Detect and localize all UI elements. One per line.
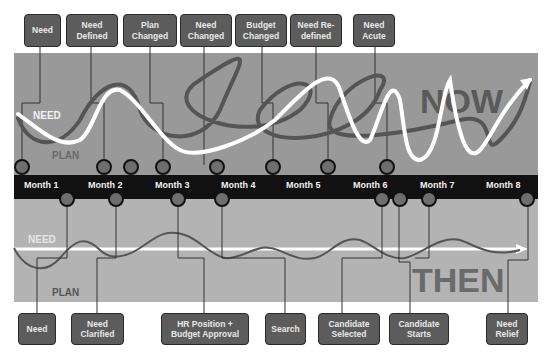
event-candidate-selected: Candidate Selected — [318, 313, 380, 345]
milestone-dot — [15, 160, 29, 174]
now-title: NOW — [420, 82, 504, 120]
milestone-dot — [124, 160, 138, 174]
milestone-dot — [422, 192, 436, 206]
month-label: Month 3 — [155, 180, 190, 190]
milestone-dot — [266, 160, 280, 174]
milestone-dot — [215, 192, 229, 206]
event-budget-changed: Budget Changed — [235, 14, 287, 47]
event-need-clarified: Need Clarified — [71, 313, 124, 345]
event-candidate-starts: Candidate Starts — [389, 313, 449, 345]
milestone-dot — [520, 192, 534, 206]
then-title: THEN — [412, 261, 505, 299]
milestone-dot — [60, 192, 74, 206]
milestone-dot — [156, 160, 170, 174]
event-need-acute: Need Acute — [353, 14, 395, 47]
event-need-relief: Need Relief — [486, 313, 528, 345]
month-label: Month 7 — [420, 180, 455, 190]
event-need: Need — [24, 14, 61, 47]
then-plan-label: PLAN — [52, 287, 79, 298]
event-then-need: Need — [18, 313, 56, 345]
event-plan-changed: Plan Changed — [123, 14, 177, 47]
milestone-dot — [321, 160, 335, 174]
milestone-dot — [210, 160, 224, 174]
then-need-label: NEED — [28, 234, 56, 245]
event-hr-budget-approval: HR Position + Budget Approval — [161, 313, 249, 345]
milestone-dot — [171, 192, 185, 206]
month-label: Month 6 — [353, 180, 388, 190]
event-search: Search — [265, 313, 306, 345]
now-need-label: NEED — [33, 110, 61, 121]
event-need-defined: Need Defined — [66, 14, 118, 47]
milestone-dot — [380, 160, 394, 174]
event-need-changed: Need Changed — [180, 14, 232, 47]
month-label: Month 4 — [221, 180, 256, 190]
milestone-dot — [109, 192, 123, 206]
now-plan-label: PLAN — [52, 150, 79, 161]
milestone-dot — [97, 160, 111, 174]
month-label: Month 5 — [286, 180, 321, 190]
timeline-diagram: NOW THEN NEED PLAN NEED PLAN — [0, 0, 549, 358]
milestone-dot — [375, 192, 389, 206]
month-label: Month 2 — [88, 180, 123, 190]
month-label: Month 8 — [486, 180, 521, 190]
event-need-redefined: Need Re- defined — [290, 14, 342, 47]
month-label: Month 1 — [24, 180, 59, 190]
milestone-dot — [393, 192, 407, 206]
